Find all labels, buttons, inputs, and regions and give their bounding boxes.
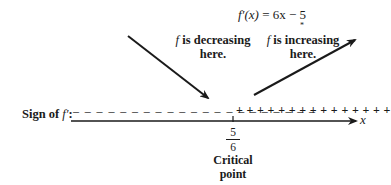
fraction-denominator: 6 [226, 140, 240, 153]
axis-variable-label: x [360, 112, 366, 128]
equation-marker: * [300, 22, 304, 30]
equation-rhs: 6x − 5 [273, 7, 306, 22]
fraction-numerator: 5 [226, 126, 240, 140]
increasing-line1: is increasing [270, 33, 339, 47]
decreasing-line1: is decreasing [179, 33, 250, 47]
equation-lhs: f′(x) [238, 7, 259, 22]
decreasing-annotation: f is decreasing here. [160, 33, 266, 61]
positive-signs: + + + + + + + + + + + + + + + [236, 103, 391, 118]
critical-point-label: Critical point [206, 153, 260, 181]
critical-value-fraction: 5 6 [226, 126, 240, 153]
critical-label-line2: point [220, 167, 247, 181]
critical-label-line1: Critical [213, 153, 252, 167]
derivative-equation: f′(x) = 6x − 5 * [238, 7, 306, 23]
equation-equals: = [259, 7, 273, 22]
increasing-annotation: f is increasing here. [254, 33, 352, 61]
decreasing-line2: here. [200, 47, 227, 61]
increasing-line2: here. [290, 47, 317, 61]
sign-label-prefix: Sign of [22, 107, 62, 121]
sign-chart-label: Sign of f′: [22, 107, 73, 122]
